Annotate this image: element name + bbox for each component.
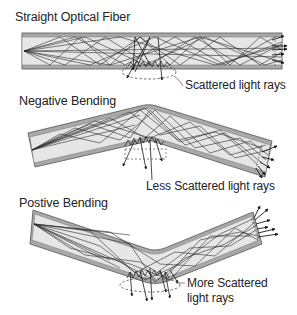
positive-bending-fiber [30, 206, 278, 301]
negative-bending-fiber [28, 105, 277, 180]
optical-fiber-bending-diagram: Straight Optical Fiber Scattered light r… [0, 0, 297, 315]
straight-fiber [22, 33, 287, 86]
